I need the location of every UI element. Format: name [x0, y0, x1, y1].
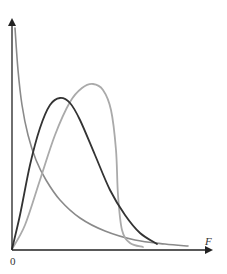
origin-label: 0	[10, 255, 16, 267]
decreasing-curve	[15, 28, 188, 246]
dark-skewed-curve	[12, 98, 157, 249]
x-axis-label: F	[204, 235, 212, 247]
light-peaked-curve	[12, 84, 143, 249]
f-distribution-chart: 0 F	[0, 0, 227, 274]
